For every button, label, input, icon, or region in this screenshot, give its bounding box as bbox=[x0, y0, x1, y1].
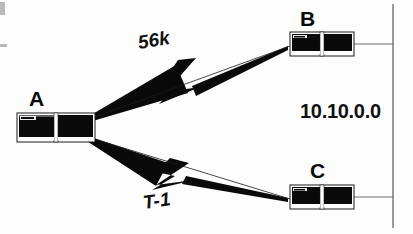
network-diagram-canvas: A B C 56k T-1 10.10.0.0 bbox=[0, 0, 413, 234]
backbone-subnet-label: 10.10.0.0 bbox=[300, 101, 381, 121]
link-a-b-hairline bbox=[78, 46, 290, 123]
link-label-t1: T-1 bbox=[142, 189, 172, 212]
link-a-c-wan-symbol bbox=[78, 133, 290, 202]
node-label-a: A bbox=[29, 88, 44, 109]
link-a-b-wan-symbol bbox=[78, 46, 290, 125]
node-label-c: C bbox=[310, 160, 325, 181]
link-label-56k: 56k bbox=[137, 28, 171, 52]
device-icon-a[interactable] bbox=[17, 113, 95, 142]
node-label-b: B bbox=[300, 8, 315, 29]
device-icon-c[interactable] bbox=[290, 185, 354, 209]
link-a-b-right-wedge bbox=[192, 46, 288, 96]
link-a-c-hairline bbox=[78, 134, 290, 199]
device-icon-b[interactable] bbox=[290, 32, 354, 56]
scan-artifact-mid bbox=[0, 44, 7, 47]
link-a-c-right-wedge bbox=[182, 176, 288, 202]
scan-artifact-top bbox=[0, 2, 5, 15]
